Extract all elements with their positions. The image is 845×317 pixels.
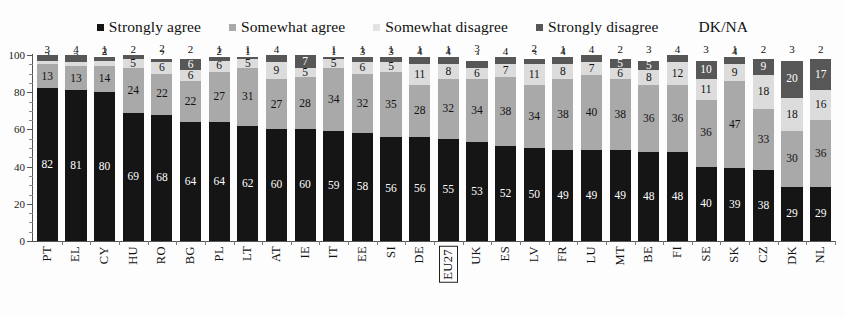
x-axis-label-CZ[interactable]: CZ <box>756 246 771 263</box>
bar-segment-BG-3: 6 <box>180 59 201 70</box>
bar-FR[interactable]: 4938841 <box>552 55 573 241</box>
bar-DK[interactable]: 293018203 <box>781 55 802 241</box>
bar-value-label: 6 <box>159 62 165 74</box>
x-tick-mark-LT <box>262 241 263 245</box>
bar-segment-RO-3: 2 <box>151 59 172 63</box>
bar-value-label: 28 <box>299 98 311 110</box>
bar-segment-BE-3: 5 <box>638 61 659 70</box>
legend-item-2[interactable]: Somewhat disagree <box>373 18 508 36</box>
bar-SK[interactable]: 3947941 <box>724 55 745 241</box>
bar-MT[interactable]: 4938652 <box>610 55 631 241</box>
x-axis-label-NL[interactable]: NL <box>813 246 828 263</box>
x-axis-label-LU[interactable]: LU <box>584 246 599 263</box>
bar-FI[interactable]: 4836124 <box>667 55 688 241</box>
x-axis-label-SI[interactable]: SI <box>384 246 399 258</box>
x-axis-label-IT[interactable]: IT <box>326 246 341 259</box>
bar-CZ[interactable]: 38331892 <box>753 55 774 241</box>
bar-DE[interactable]: 56281141 <box>409 55 430 241</box>
x-axis-label-UK[interactable]: UK <box>469 246 484 265</box>
bar-value-label: 52 <box>500 188 512 200</box>
y-minor-tick-55 <box>29 139 33 140</box>
bar-segment-ES-1: 38 <box>495 77 516 146</box>
bar-EL[interactable]: 811324 <box>65 55 86 241</box>
bar-value-label: 7 <box>503 65 509 77</box>
bar-IT[interactable]: 5934511 <box>323 55 344 241</box>
bar-segment-FR-0: 49 <box>552 150 573 241</box>
bar-LU[interactable]: 494074 <box>581 55 602 241</box>
x-axis-label-PT[interactable]: PT <box>40 246 55 261</box>
legend-item-1[interactable]: Somewhat agree <box>229 18 345 36</box>
x-axis-label-MT[interactable]: MT <box>613 246 628 266</box>
legend-item-0[interactable]: Strongly agree <box>97 18 201 36</box>
bar-UK[interactable]: 5334643 <box>466 55 487 241</box>
bar-segment-CY-2: 3 <box>94 61 115 67</box>
bar-LV[interactable]: 50341132 <box>524 55 545 241</box>
x-axis-label-DK[interactable]: DK <box>785 246 800 265</box>
x-axis-label-ES[interactable]: ES <box>498 246 513 261</box>
x-axis-label-HU[interactable]: HU <box>126 246 141 265</box>
legend-label-0: Strongly agree <box>109 18 201 36</box>
bar-EE[interactable]: 5832631 <box>352 55 373 241</box>
legend-item-3[interactable]: Strongly disagree <box>536 18 659 36</box>
y-tick-mark-100 <box>27 55 33 56</box>
x-axis-label-LT[interactable]: LT <box>240 246 255 261</box>
x-axis-label-PL[interactable]: PL <box>212 246 227 261</box>
bar-value-label: 34 <box>328 94 340 106</box>
bar-SE[interactable]: 403611103 <box>696 55 717 241</box>
x-axis-label-EE[interactable]: EE <box>355 246 370 262</box>
bar-segment-NL-4: 2 <box>810 55 831 59</box>
bar-value-label: 1 <box>360 44 366 55</box>
x-tick-mark-LU <box>606 241 607 245</box>
x-tick-mark-EE <box>377 241 378 245</box>
x-tick-mark-FR <box>577 241 578 245</box>
x-tick-mark-BE <box>663 241 664 245</box>
legend-item-4[interactable]: DK/NA <box>687 18 749 36</box>
bar-segment-EE-4: 1 <box>352 55 373 57</box>
bar-LT[interactable]: 6231511 <box>237 55 258 241</box>
bar-BE[interactable]: 4836853 <box>638 55 659 241</box>
bar-BG[interactable]: 6422662 <box>180 55 201 241</box>
x-tick-mark-DE <box>434 241 435 245</box>
x-axis-label-SK[interactable]: SK <box>727 246 742 263</box>
y-minor-tick-50 <box>29 148 33 149</box>
x-axis-label-AT[interactable]: AT <box>269 246 284 262</box>
bar-SI[interactable]: 5635531 <box>380 55 401 241</box>
bar-segment-BE-0: 48 <box>638 152 659 241</box>
x-tick-mark-NL <box>835 241 836 245</box>
bar-ES[interactable]: 523874 <box>495 55 516 241</box>
bar-value-label: 16 <box>815 99 827 111</box>
x-axis-label-BE[interactable]: BE <box>641 246 656 263</box>
x-axis-label-CY[interactable]: CY <box>97 246 112 264</box>
bar-segment-RO-2: 6 <box>151 62 172 73</box>
x-axis-label-IE[interactable]: IE <box>298 246 313 259</box>
bar-CY[interactable]: 8014321 <box>94 55 115 241</box>
chart-root: Strongly agreeSomewhat agreeSomewhat dis… <box>0 0 845 317</box>
bar-PL[interactable]: 6427621 <box>209 55 230 241</box>
bar-value-label: 8 <box>646 72 652 84</box>
bar-HU[interactable]: 692452 <box>123 55 144 241</box>
bar-segment-IE-3: 7 <box>295 55 316 68</box>
x-axis-label-EL[interactable]: EL <box>68 246 83 262</box>
x-axis-label-BG[interactable]: BG <box>183 246 198 264</box>
bar-segment-PL-2: 6 <box>209 61 230 72</box>
bar-value-label: 1 <box>216 44 222 55</box>
x-axis-label-FR[interactable]: FR <box>555 246 570 262</box>
bar-segment-EL-3: 4 <box>65 55 86 62</box>
bar-PT[interactable]: 821323 <box>37 55 58 241</box>
x-axis-label-RO[interactable]: RO <box>154 246 169 264</box>
x-axis-label-DE[interactable]: DE <box>412 246 427 263</box>
bar-AT[interactable]: 602794 <box>266 55 287 241</box>
x-tick-mark-CY <box>119 241 120 245</box>
bar-EU27[interactable]: 5532841 <box>438 55 459 241</box>
bar-RO[interactable]: 6822622 <box>151 55 172 241</box>
x-axis-label-FI[interactable]: FI <box>670 246 685 258</box>
chart-legend: Strongly agreeSomewhat agreeSomewhat dis… <box>0 14 845 40</box>
x-axis-label-SE[interactable]: SE <box>699 246 714 261</box>
bar-segment-NL-3: 17 <box>810 59 831 91</box>
y-minor-tick-65 <box>29 120 33 121</box>
bar-NL[interactable]: 293616172 <box>810 55 831 241</box>
x-axis-label-LV[interactable]: LV <box>527 246 542 262</box>
bar-IE[interactable]: 602857 <box>295 55 316 241</box>
x-axis-label-EU27[interactable]: EU27 <box>439 246 458 283</box>
bar-segment-PT-0: 82 <box>37 88 58 241</box>
